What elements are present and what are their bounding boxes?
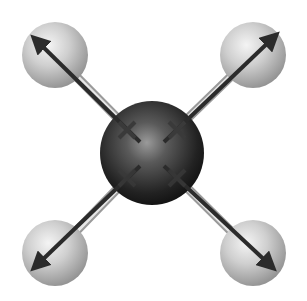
molecule-svg bbox=[0, 0, 307, 301]
molecule-diagram bbox=[0, 0, 307, 301]
outer-atom-bottom-left bbox=[22, 220, 88, 286]
outer-atom-top-left bbox=[22, 22, 88, 88]
